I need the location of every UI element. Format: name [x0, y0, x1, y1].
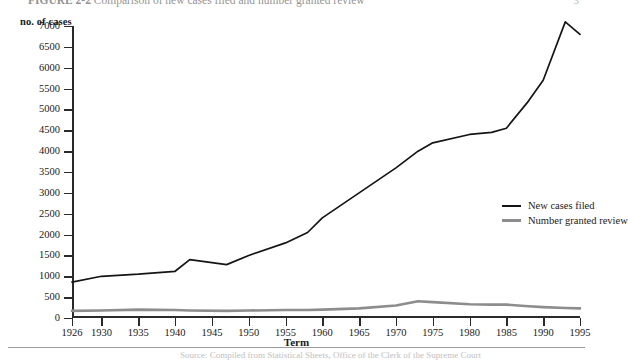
x-tick [543, 318, 544, 326]
x-tick [286, 318, 287, 326]
y-tick-label: 2000 [14, 229, 60, 240]
page-number: 3 [574, 0, 580, 6]
y-tick [64, 318, 72, 319]
legend-label-number-granted-review: Number granted review [528, 215, 628, 226]
y-tick [64, 214, 72, 215]
x-tick [506, 318, 507, 326]
y-tick-label: 0 [14, 313, 60, 324]
y-tick-label: 3500 [14, 167, 60, 178]
x-tick [470, 318, 471, 326]
figure-caption: FIGURE 2-2 Comparison of new cases filed… [28, 0, 365, 6]
line-new-cases-filed [72, 22, 580, 282]
y-tick-label: 6000 [14, 62, 60, 73]
x-tick [138, 318, 139, 326]
y-tick [64, 109, 72, 110]
x-tick [359, 318, 360, 326]
plot-area: 0500100015002000250030003500400045005000… [72, 26, 580, 318]
legend-swatch-line-icon [502, 219, 521, 222]
y-tick-label: 1000 [14, 271, 60, 282]
legend-swatch-line-icon [502, 205, 521, 207]
y-tick-label: 4000 [14, 146, 60, 157]
x-tick [175, 318, 176, 326]
y-tick-label: 500 [14, 292, 60, 303]
y-tick [64, 68, 72, 69]
y-tick-label: 2500 [14, 208, 60, 219]
legend-label-new-cases-filed: New cases filed [528, 200, 594, 211]
line-number-granted-review [72, 301, 580, 311]
y-tick-label: 5000 [14, 104, 60, 115]
x-tick [212, 318, 213, 326]
y-tick [64, 255, 72, 256]
figure-caption-text: Comparison of new cases filed and number… [94, 0, 365, 6]
footer-divider [8, 347, 585, 348]
y-tick-label: 4500 [14, 125, 60, 136]
y-tick [64, 172, 72, 173]
y-tick [64, 26, 72, 27]
y-tick-label: 6500 [14, 42, 60, 53]
x-tick [580, 318, 581, 326]
x-tick [322, 318, 323, 326]
y-tick-label: 5500 [14, 83, 60, 94]
y-tick [64, 151, 72, 152]
y-tick [64, 130, 72, 131]
footer-source-note: Source: Compiled from Statistical Sheets… [180, 350, 481, 360]
legend-item-new-cases-filed: New cases filed [502, 198, 628, 213]
x-tick [433, 318, 434, 326]
y-tick [64, 89, 72, 90]
legend-item-number-granted-review: Number granted review [502, 213, 628, 228]
y-tick-label: 3000 [14, 188, 60, 199]
chart-legend: New cases filed Number granted review [502, 198, 628, 228]
y-tick-label: 1500 [14, 250, 60, 261]
x-tick [72, 318, 73, 326]
x-tick [249, 318, 250, 326]
x-tick [396, 318, 397, 326]
y-tick-label: 7000 [14, 21, 60, 32]
y-tick [64, 235, 72, 236]
y-tick [64, 47, 72, 48]
y-tick [64, 193, 72, 194]
figure-caption-number: FIGURE 2-2 [28, 0, 91, 6]
y-tick [64, 276, 72, 277]
series-lines [72, 26, 580, 318]
y-tick [64, 297, 72, 298]
x-tick [101, 318, 102, 326]
